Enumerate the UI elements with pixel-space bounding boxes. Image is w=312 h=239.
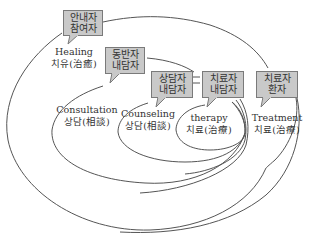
consultation-ellipse-top <box>147 58 194 72</box>
label-consultation-korean: 상담(相談) <box>52 116 122 128</box>
callout-consultation-line1: 동반자 <box>108 49 142 60</box>
callout-treatment: 치료자 환자 <box>256 71 298 98</box>
label-treatment: Treatment 치료(治療) <box>246 112 308 136</box>
label-healing-english: Healing <box>46 46 102 58</box>
label-consultation-english: Consultation <box>52 104 122 116</box>
callout-treatment-tail <box>259 97 275 108</box>
label-healing: Healing 치유(治癒) <box>46 46 102 70</box>
callout-healing: 안내자 참여자 <box>63 10 103 36</box>
label-therapy: therapy 치료(治療) <box>178 112 240 136</box>
label-treatment-korean: 치료(治療) <box>246 124 308 136</box>
callout-healing-line1: 안내자 <box>66 12 100 23</box>
label-treatment-english: Treatment <box>246 112 308 124</box>
callout-therapy: 치료자 내담자 <box>202 71 244 98</box>
callout-consultation-tail <box>108 73 124 84</box>
label-consultation: Consultation 상담(相談) <box>52 104 122 128</box>
callout-counseling-line1: 상담자 <box>154 73 190 84</box>
callout-treatment-line1: 치료자 <box>259 73 295 84</box>
label-healing-korean: 치유(治癒) <box>46 58 102 70</box>
label-counseling-english: Counseling <box>119 108 177 120</box>
callout-therapy-line2: 내담자 <box>205 84 241 95</box>
callout-healing-tail <box>66 35 82 45</box>
callout-consultation-line2: 내담자 <box>108 60 142 71</box>
label-counseling: Counseling 상담(相談) <box>119 108 177 132</box>
callout-consultation: 동반자 내담자 <box>105 47 145 74</box>
label-therapy-english: therapy <box>178 112 240 124</box>
callout-therapy-line1: 치료자 <box>205 73 241 84</box>
callout-counseling-line2: 내담자 <box>154 84 190 95</box>
label-counseling-korean: 상담(相談) <box>119 120 177 132</box>
callout-treatment-line2: 환자 <box>259 84 295 95</box>
callout-therapy-tail <box>205 97 221 108</box>
callout-healing-line2: 참여자 <box>66 23 100 34</box>
callout-counseling-tail <box>154 97 170 108</box>
callout-counseling: 상담자 내담자 <box>151 71 193 98</box>
label-therapy-korean: 치료(治療) <box>178 124 240 136</box>
